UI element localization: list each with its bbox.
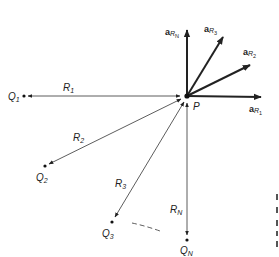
label-q1: Q1 <box>8 91 20 103</box>
label-p: P <box>193 101 200 112</box>
label-a-r2: aR2 <box>243 47 256 59</box>
charge-qn <box>185 238 188 241</box>
label-qn: QN <box>180 245 194 257</box>
point-p <box>184 93 189 98</box>
r3-vector <box>115 102 184 217</box>
label-rn: RN <box>170 204 183 216</box>
cropped-caption-edge <box>276 194 278 247</box>
a-r1-vector <box>187 96 261 97</box>
label-r1: R1 <box>63 82 74 94</box>
distance-vectors <box>28 96 187 235</box>
charge-q2 <box>43 164 46 167</box>
charge-q1 <box>22 94 25 97</box>
label-a-rn: aRN <box>165 27 179 39</box>
charge-q3 <box>110 220 113 223</box>
points <box>22 93 189 241</box>
label-r2: R2 <box>73 132 84 144</box>
label-a-r1: aR1 <box>249 104 262 116</box>
r2-vector <box>49 99 181 164</box>
label-q2: Q2 <box>36 172 48 184</box>
label-a-r3: aR3 <box>204 24 217 36</box>
label-q3: Q3 <box>102 228 114 240</box>
label-r3: R3 <box>115 178 126 190</box>
continuation-dashes <box>132 223 160 231</box>
superposition-diagram: P Q1 Q2 Q3 QN R1 R2 R3 RN aR1 aR2 aR3 aR… <box>0 0 279 257</box>
unit-vectors <box>187 30 261 97</box>
